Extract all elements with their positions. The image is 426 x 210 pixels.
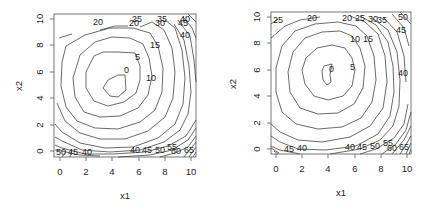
svg-text:20: 20 [307,13,317,23]
svg-text:40: 40 [180,30,190,40]
svg-text:0: 0 [329,64,334,74]
y-tick-label: 6 [34,69,45,74]
svg-text:35: 35 [377,15,387,25]
svg-text:5: 5 [350,62,355,72]
svg-text:65: 65 [399,142,409,152]
svg-text:65: 65 [184,145,194,155]
y-axis-left: 0 2 4 6 8 10 x2 [13,14,54,154]
svg-text:45: 45 [142,145,152,155]
svg-text:45: 45 [284,144,294,154]
y-axis-title: x2 [227,79,238,89]
y-tick-label: 10 [251,12,262,23]
x-tick-label: 10 [402,163,413,174]
x-tick-label: 4 [109,166,114,177]
svg-text:45: 45 [396,25,406,35]
contour-figure: 20 25 20 35 30 40 45 40 15 5 0 10 50 45 … [0,0,426,210]
plot-frame [271,12,411,154]
y-tick-label: 0 [251,146,262,151]
y-tick-label: 8 [34,42,45,47]
svg-text:20: 20 [342,13,352,23]
svg-text:5: 5 [135,52,140,62]
svg-text:20: 20 [93,17,103,27]
x-tick-label: 0 [57,166,62,177]
x-axis-right: 0 2 4 6 8 10 x1 [273,154,412,198]
x-axis-title: x1 [336,187,346,198]
svg-text:0: 0 [124,65,129,75]
x-tick-label: 8 [378,163,383,174]
contour-plot-left: 20 25 20 35 30 40 45 40 15 5 0 10 50 45 … [13,14,196,201]
y-tick-label: 2 [34,122,45,127]
y-tick-label: 8 [251,40,262,45]
y-axis-right: 0 2 4 6 8 10 x2 [227,12,271,152]
y-axis-title: x2 [13,81,24,91]
svg-text:60: 60 [171,146,181,156]
svg-text:40: 40 [130,145,140,155]
svg-text:15: 15 [363,34,373,44]
x-tick-label: 4 [325,163,330,174]
svg-text:10: 10 [350,34,360,44]
x-tick-label: 6 [352,163,357,174]
y-tick-label: 4 [34,95,45,100]
svg-text:40: 40 [297,143,307,153]
y-tick-label: 10 [34,14,45,25]
svg-text:25: 25 [355,13,365,23]
svg-text:25: 25 [273,15,283,25]
svg-text:50: 50 [398,12,408,22]
y-tick-label: 2 [251,120,262,125]
svg-text:50: 50 [155,145,165,155]
plot-frame [54,14,196,157]
x-tick-label: 0 [273,163,278,174]
svg-text:50: 50 [56,147,66,157]
svg-text:30: 30 [155,18,165,28]
svg-text:20: 20 [129,18,139,28]
contour-lines [271,12,411,154]
contour-plot-right: 25 20 20 25 30 35 50 45 10 15 0 5 40 45 … [227,12,412,198]
svg-text:15: 15 [150,40,160,50]
x-tick-label: 8 [162,166,167,177]
x-axis-title: x1 [120,190,130,201]
y-tick-label: 0 [34,148,45,153]
svg-text:10: 10 [146,73,156,83]
svg-text:45: 45 [178,18,188,28]
contour-labels: 20 25 20 35 30 40 45 40 15 5 0 10 50 45 … [56,14,194,157]
svg-text:45: 45 [357,142,367,152]
svg-text:40: 40 [82,147,92,157]
svg-text:60: 60 [387,143,397,153]
svg-text:45: 45 [68,147,78,157]
svg-text:40: 40 [345,142,355,152]
x-tick-label: 2 [83,166,88,177]
x-axis-left: 0 2 4 6 8 10 x1 [57,157,196,201]
x-tick-label: 6 [136,166,141,177]
x-tick-label: 10 [186,166,197,177]
svg-text:40: 40 [398,68,408,78]
y-tick-label: 6 [251,67,262,72]
contour-lines [55,14,196,157]
x-tick-label: 2 [299,163,304,174]
y-tick-label: 4 [251,93,262,98]
svg-text:50: 50 [370,141,380,151]
